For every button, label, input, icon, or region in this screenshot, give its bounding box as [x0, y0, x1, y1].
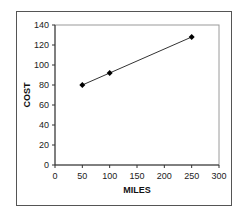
diamond-marker [79, 82, 85, 88]
y-tick-label: 120 [34, 40, 49, 50]
y-tick-label: 140 [34, 20, 49, 30]
y-tick-label: 0 [44, 160, 49, 170]
y-tick-label: 20 [39, 140, 49, 150]
diamond-marker [189, 34, 195, 40]
series-line [82, 37, 191, 85]
x-tick-label: 100 [102, 171, 117, 181]
y-axis: 020406080100120140 [34, 20, 55, 170]
y-axis-label: COST [22, 82, 32, 108]
diamond-marker [107, 70, 113, 76]
x-tick-label: 50 [77, 171, 87, 181]
x-tick-label: 250 [184, 171, 199, 181]
x-axis: 050100150200250300 [52, 165, 226, 181]
line-chart: 020406080100120140 050100150200250300 MI… [0, 0, 246, 220]
y-tick-label: 100 [34, 60, 49, 70]
y-tick-label: 80 [39, 80, 49, 90]
x-tick-label: 0 [52, 171, 57, 181]
x-tick-label: 200 [157, 171, 172, 181]
y-tick-label: 60 [39, 100, 49, 110]
plot-area [55, 25, 219, 165]
x-axis-label: MILES [123, 185, 151, 195]
data-series [79, 34, 194, 88]
x-tick-label: 300 [211, 171, 226, 181]
y-tick-label: 40 [39, 120, 49, 130]
x-tick-label: 150 [129, 171, 144, 181]
